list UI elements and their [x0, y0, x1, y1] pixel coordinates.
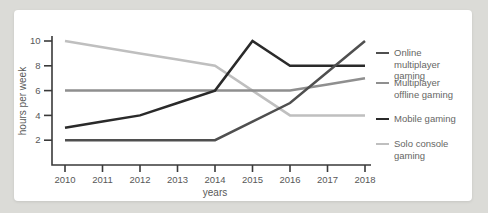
plot-area: 2468102010201120122013201420152016201720…: [30, 35, 376, 185]
x-tick-label: 2014: [204, 174, 225, 185]
solo-console-line-swatch: [376, 143, 389, 146]
x-tick-label: 2010: [54, 174, 75, 185]
legend-item-mobile-gaming: Mobile gaming: [376, 113, 456, 125]
legend-item-multiplayer-offline-gaming: Multiplayer offline gaming: [376, 77, 453, 100]
legend-label: Multiplayer offline gaming: [394, 77, 453, 100]
y-tick-label: 6: [35, 85, 40, 96]
y-tick-label: 2: [35, 134, 40, 145]
chart-card: 2468102010201120122013201420152016201720…: [14, 10, 472, 201]
x-tick-label: 2018: [354, 174, 375, 185]
legend-label: Solo console gaming: [394, 138, 448, 161]
y-axis-title: hours per week: [17, 66, 28, 135]
mobile-gaming-line-swatch: [376, 118, 389, 121]
x-tick-label: 2016: [279, 174, 300, 185]
x-axis-title: years: [203, 187, 227, 198]
y-tick-label: 10: [30, 35, 41, 46]
x-tick-label: 2013: [167, 174, 188, 185]
multiplayer-offline-line-swatch: [376, 82, 389, 85]
legend-label: Mobile gaming: [394, 113, 456, 125]
online-multiplayer-line-swatch: [376, 52, 389, 55]
y-tick-label: 8: [35, 60, 40, 71]
x-tick-label: 2015: [242, 174, 263, 185]
chart-legend: Online multiplayer gaming Multiplayer of…: [376, 10, 470, 201]
y-tick-label: 4: [35, 110, 40, 121]
x-tick-label: 2017: [317, 174, 338, 185]
x-tick-label: 2012: [129, 174, 150, 185]
legend-item-solo-console-gaming: Solo console gaming: [376, 138, 448, 161]
x-tick-label: 2011: [92, 174, 112, 185]
axes: [52, 36, 371, 165]
